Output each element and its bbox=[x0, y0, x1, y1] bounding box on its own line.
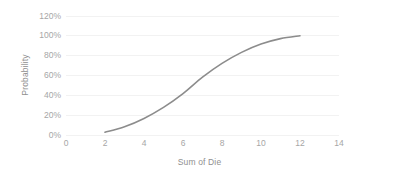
x-tick-label: 0 bbox=[51, 138, 81, 148]
y-tick-label: 80% bbox=[30, 51, 61, 60]
x-axis-title-label: Sum of Die bbox=[178, 157, 222, 167]
x-axis-title: Sum of Die bbox=[0, 157, 399, 167]
y-tick-label: 100% bbox=[30, 31, 61, 40]
y-axis-tick-labels: 0%20%40%60%80%100%120% bbox=[30, 11, 61, 135]
cumulative-probability-chart: Probability 0%20%40%60%80%100%120% 02468… bbox=[0, 0, 399, 181]
x-tick-label: 12 bbox=[285, 138, 315, 148]
x-tick-label: 8 bbox=[207, 138, 237, 148]
y-tick-label: 120% bbox=[30, 12, 61, 21]
y-tick-label: 40% bbox=[30, 91, 61, 100]
y-axis-title-label: Probability bbox=[20, 54, 30, 95]
plot-area bbox=[66, 16, 339, 135]
x-tick-label: 6 bbox=[168, 138, 198, 148]
x-tick-label: 4 bbox=[129, 138, 159, 148]
probability-line-series bbox=[105, 36, 300, 132]
x-tick-label: 2 bbox=[90, 138, 120, 148]
x-axis-tick-labels: 02468101214 bbox=[0, 138, 399, 150]
plot-svg bbox=[66, 16, 339, 135]
x-tick-label: 10 bbox=[246, 138, 276, 148]
y-tick-label: 60% bbox=[30, 71, 61, 80]
x-tick-label: 14 bbox=[324, 138, 354, 148]
y-tick-label: 20% bbox=[30, 111, 61, 120]
gridlines bbox=[66, 16, 339, 135]
